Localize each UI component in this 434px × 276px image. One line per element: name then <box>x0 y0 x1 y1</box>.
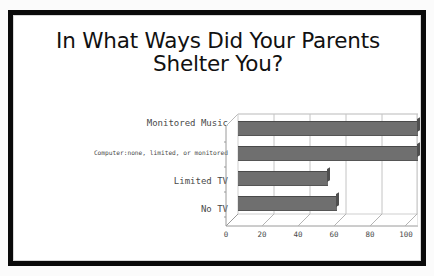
bar-computer <box>238 146 418 159</box>
category-axis-labels: Monitored Music Computer:none, limited, … <box>28 114 228 232</box>
xtick-100: 100 <box>399 230 413 239</box>
slide-title: In What Ways Did Your Parents Shelter Yo… <box>20 29 416 75</box>
bar-chart: Monitored Music Computer:none, limited, … <box>28 104 418 254</box>
bar-depth-cap <box>417 117 420 132</box>
bar-face <box>238 121 418 136</box>
slide-inner-border: In What Ways Did Your Parents Shelter Yo… <box>13 15 421 261</box>
xtick-80: 80 <box>365 230 374 239</box>
category-label-computer: Computer:none, limited, or monitored <box>28 149 228 156</box>
slide-frame: In What Ways Did Your Parents Shelter Yo… <box>8 10 426 266</box>
xtick-0: 0 <box>224 230 229 239</box>
bar-monitored-music <box>238 121 418 134</box>
bar-depth-cap <box>327 167 330 182</box>
bar-no-tv <box>238 196 337 209</box>
xtick-60: 60 <box>329 230 338 239</box>
category-label-monitored-music: Monitored Music <box>28 118 228 128</box>
value-axis-labels: 0 20 40 60 80 100 <box>224 230 424 250</box>
slide-page: In What Ways Did Your Parents Shelter Yo… <box>0 0 434 276</box>
bar-face <box>238 171 328 186</box>
bar-depth-cap <box>336 192 339 207</box>
bar-face <box>238 196 337 211</box>
bar-limited-tv <box>238 171 328 184</box>
xtick-40: 40 <box>293 230 302 239</box>
category-label-no-tv: No TV <box>28 204 228 214</box>
bar-face <box>238 146 418 161</box>
category-label-limited-tv: Limited TV <box>28 176 228 186</box>
bar-depth-cap <box>417 142 420 157</box>
xtick-20: 20 <box>257 230 266 239</box>
